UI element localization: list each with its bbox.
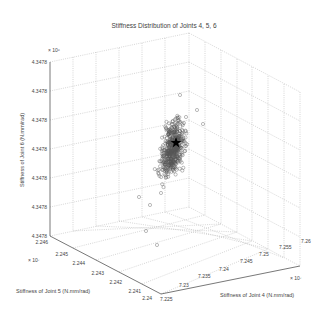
svg-text:2.241: 2.241 [128, 288, 141, 294]
y-exponent: × 10⁷ [28, 257, 40, 263]
z-axis-ticks: 4.3478 4.3478 4.3478 4.3478 4.3478 4.347… [32, 59, 48, 239]
x-exponent: × 10⁷ [290, 275, 302, 281]
svg-text:4.3478: 4.3478 [32, 88, 48, 94]
scatter-3d-chart: Stiffness Distribution of Joints 4, 5, 6 [0, 0, 323, 316]
svg-text:7.235: 7.235 [198, 273, 211, 279]
svg-text:2.242: 2.242 [109, 279, 122, 285]
svg-text:2.246: 2.246 [35, 239, 48, 245]
svg-text:4.3478: 4.3478 [32, 146, 48, 152]
svg-text:2.244: 2.244 [72, 260, 85, 266]
svg-text:7.26: 7.26 [301, 238, 311, 244]
svg-text:4.3478: 4.3478 [32, 117, 48, 123]
svg-text:2.243: 2.243 [91, 270, 104, 276]
svg-text:4.3478: 4.3478 [32, 204, 48, 210]
z-axis-label: Stiffness of Joint 6 (N.mm/rad) [19, 113, 25, 187]
x-axis-label: Stiffness of Joint 4 (N.mm/rad) [220, 292, 294, 298]
z-exponent: × 10⁶ [48, 47, 60, 53]
svg-text:2.24: 2.24 [142, 295, 152, 301]
svg-text:7.255: 7.255 [279, 244, 292, 250]
svg-text:7.245: 7.245 [240, 258, 253, 264]
y-axis-label: Stiffness of Joint 5 (N.mm/rad) [16, 288, 90, 294]
svg-text:2.245: 2.245 [55, 251, 68, 257]
figure-caption [40, 302, 290, 308]
svg-text:7.25: 7.25 [259, 251, 269, 257]
axes-frame [50, 62, 300, 294]
svg-text:4.3478: 4.3478 [32, 59, 48, 65]
svg-text:4.3478: 4.3478 [32, 175, 48, 181]
svg-text:7.23: 7.23 [179, 282, 189, 288]
svg-text:7.24: 7.24 [219, 266, 229, 272]
chart-title: Stiffness Distribution of Joints 4, 5, 6 [111, 22, 216, 29]
